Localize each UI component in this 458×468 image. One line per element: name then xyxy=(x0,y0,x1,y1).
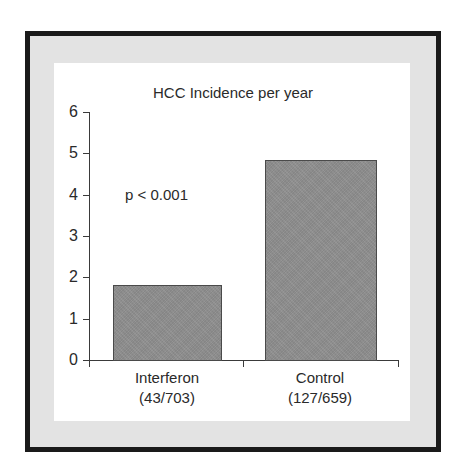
y-tick-label-1: 1 xyxy=(58,311,78,327)
y-tick-label-5: 5 xyxy=(58,145,78,161)
x-label-control-name: Control xyxy=(250,368,390,388)
x-tick-start xyxy=(89,360,90,367)
y-tick-label-4: 4 xyxy=(58,187,78,203)
x-label-interferon-name: Interferon xyxy=(97,368,237,388)
y-tick-label-6: 6 xyxy=(58,104,78,120)
y-tick-label-3: 3 xyxy=(58,228,78,244)
y-tick-label-0: 0 xyxy=(58,352,78,368)
bar-interferon xyxy=(113,285,222,361)
y-tick-6 xyxy=(83,112,89,113)
y-tick-1 xyxy=(83,319,89,320)
y-tick-3 xyxy=(83,236,89,237)
y-tick-4 xyxy=(83,195,89,196)
x-label-control-count: (127/659) xyxy=(250,388,390,408)
y-tick-5 xyxy=(83,153,89,154)
p-value-annotation: p < 0.001 xyxy=(125,186,188,203)
chart-title: HCC Incidence per year xyxy=(153,84,313,101)
x-label-interferon-count: (43/703) xyxy=(97,388,237,408)
x-tick-mid xyxy=(243,360,244,367)
x-label-control: Control (127/659) xyxy=(250,368,390,408)
bar-control xyxy=(265,160,377,361)
y-tick-label-2: 2 xyxy=(58,269,78,285)
x-label-interferon: Interferon (43/703) xyxy=(97,368,237,408)
y-axis xyxy=(89,112,90,367)
y-tick-2 xyxy=(83,277,89,278)
x-tick-end xyxy=(398,360,399,367)
